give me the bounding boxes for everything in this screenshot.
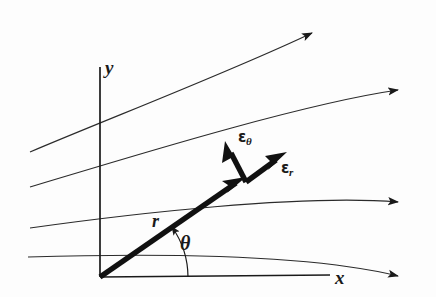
figure-canvas: y x r θ εθ εr [0,0,436,297]
streamline-2 [30,90,398,187]
epsilon-r-subscript: r [289,166,293,178]
position-vector-r [100,177,246,277]
x-axis-label: x [335,268,345,287]
diagram-svg [0,0,436,297]
epsilon-theta-symbol: ε [238,128,246,146]
epsilon-theta-subscript: θ [246,135,251,147]
epsilon-theta-label: εθ [238,130,251,147]
epsilon-r-label: εr [281,161,293,178]
radius-label: r [152,212,159,230]
streamline-1 [30,33,312,152]
x-axis [100,275,330,277]
streamline-3 [30,200,398,228]
unit-vector-epsilon-theta [222,141,246,182]
y-axis-label: y [105,58,113,77]
axes-group [100,67,330,277]
epsilon-r-symbol: ε [281,159,289,177]
angle-theta-label: θ [180,233,190,253]
streamline-group [28,33,398,276]
